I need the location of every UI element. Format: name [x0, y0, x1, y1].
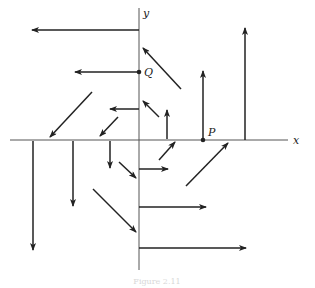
vector-arrow — [159, 142, 175, 160]
vector-arrow — [93, 189, 136, 232]
vector-arrow — [119, 162, 136, 178]
vector-arrow — [100, 117, 118, 136]
point-p-label: P — [207, 126, 216, 139]
point-p-dot — [201, 138, 206, 143]
x-axis-label: x — [293, 134, 300, 147]
point-q-dot — [137, 70, 142, 75]
labeled-points: QP — [137, 66, 216, 142]
point-q-label: Q — [144, 66, 153, 79]
axes: x y — [10, 7, 300, 270]
vector-field-diagram: x y QP Figure 2.11 — [0, 0, 315, 288]
vector-arrow — [50, 92, 92, 137]
y-axis-label: y — [142, 7, 150, 20]
vector-arrow — [143, 101, 159, 117]
figure-caption: Figure 2.11 — [133, 277, 180, 286]
vector-arrow — [186, 143, 228, 186]
